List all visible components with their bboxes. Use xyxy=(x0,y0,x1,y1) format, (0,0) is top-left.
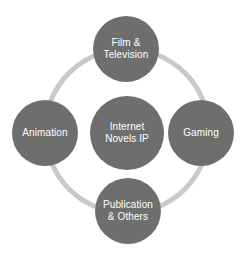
node-animation[interactable]: Animation xyxy=(12,100,78,166)
node-internet-novels-ip-label: Internet Novels IP xyxy=(102,121,152,146)
node-gaming[interactable]: Gaming xyxy=(168,100,234,166)
node-film-television[interactable]: Film & Television xyxy=(93,16,159,82)
node-film-television-label: Film & Television xyxy=(101,37,152,62)
node-publication-others-label: Publication & Others xyxy=(100,199,156,224)
node-internet-novels-ip[interactable]: Internet Novels IP xyxy=(90,96,164,170)
diagram-canvas: Animation Gaming Film & Television Publi… xyxy=(0,0,248,257)
node-publication-others[interactable]: Publication & Others xyxy=(95,178,161,244)
node-animation-label: Animation xyxy=(19,127,70,140)
node-gaming-label: Gaming xyxy=(180,127,222,140)
